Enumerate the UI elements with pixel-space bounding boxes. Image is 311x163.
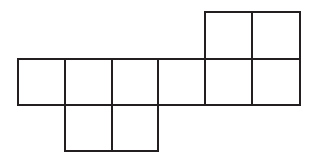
grid-cell-r0c5 bbox=[252, 12, 300, 59]
polyomino-figure-canvas bbox=[0, 0, 311, 163]
grid-cell-r1c3 bbox=[158, 59, 205, 105]
polyomino-net-svg bbox=[0, 0, 311, 163]
grid-cell-r1c0 bbox=[18, 59, 65, 105]
grid-cell-r2c2 bbox=[112, 105, 158, 151]
grid-cell-r2c1 bbox=[65, 105, 112, 151]
grid-cell-r0c4 bbox=[205, 12, 252, 59]
grid-cell-r1c5 bbox=[252, 59, 300, 105]
grid-cell-r1c2 bbox=[112, 59, 158, 105]
grid-cell-r1c1 bbox=[65, 59, 112, 105]
grid-cell-r1c4 bbox=[205, 59, 252, 105]
